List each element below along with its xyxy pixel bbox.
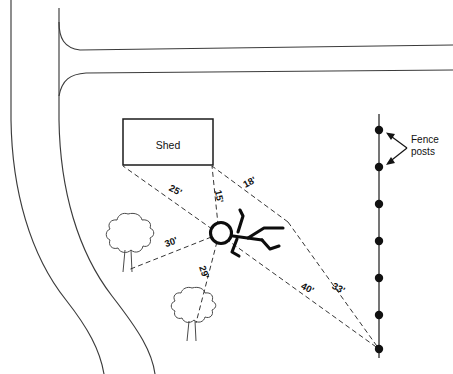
fence-posts-label-line1: Fence (411, 134, 439, 145)
fence-posts-callout: Fence posts (386, 133, 439, 166)
fence (375, 114, 383, 358)
tree-left (106, 213, 154, 272)
measure-line-40 (219, 234, 379, 349)
tree-lower (171, 287, 216, 341)
dimension-label-15: 15' (213, 189, 226, 204)
tree-canopy-icon (106, 213, 154, 252)
dimension-label-25: 25' (167, 182, 183, 198)
fence-posts-label-line2: posts (411, 146, 435, 157)
diagram-canvas: Shed 25' 15' 18' 30' 29' 40' 33' (0, 0, 453, 374)
road-top-lower-edge (59, 70, 453, 96)
figure-leg-left (232, 239, 239, 256)
fence-post (375, 311, 383, 319)
figure-head (211, 223, 232, 244)
tree-canopy-icon (171, 287, 216, 322)
fence-post (375, 237, 383, 245)
figure-arm-upper (238, 210, 243, 232)
figure-leg-right (262, 240, 279, 249)
road-left-outer-edge (11, 0, 104, 374)
dimension-label-18: 18' (241, 174, 257, 190)
fence-post (375, 126, 383, 134)
dimension-label-30: 30' (163, 234, 179, 249)
person-figure (211, 210, 284, 256)
fence-post (375, 163, 383, 171)
shed-label: Shed (156, 139, 181, 151)
fence-post (375, 200, 383, 208)
road-top-upper-edge (59, 8, 453, 50)
road-network (11, 0, 453, 374)
dimension-label-29: 29' (197, 264, 211, 280)
site-plan-svg: Shed 25' 15' 18' 30' 29' 40' 33' (0, 0, 453, 374)
fence-post (375, 345, 383, 353)
fence-post (375, 274, 383, 282)
dimension-label-33: 33' (330, 280, 346, 296)
tree-trunk (187, 321, 196, 341)
figure-arm-right (248, 228, 283, 238)
measurement-lines (123, 166, 379, 349)
road-left-inner-edge (59, 22, 155, 374)
